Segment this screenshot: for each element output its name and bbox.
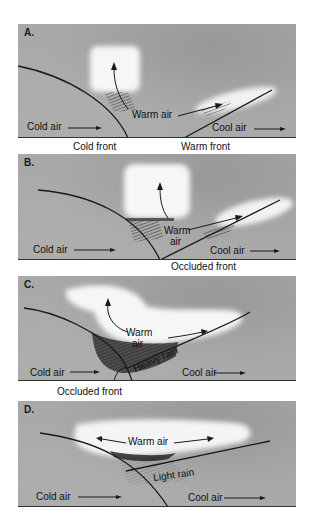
panel-label: D. <box>24 404 34 415</box>
panel-label: B. <box>24 157 34 168</box>
ground-line <box>18 137 296 138</box>
panel-a-cold-and-warm-fronts: A. Warm air Cold air Cool air <box>18 24 296 138</box>
warm-air-label-line2: air <box>132 339 143 349</box>
panel-label: C. <box>24 279 34 290</box>
cold-air-label: Cold air <box>27 122 61 132</box>
cold-air-label: Cold air <box>30 368 64 378</box>
cool-air-label: Cool air <box>182 368 216 378</box>
warm-air-label-line2: air <box>170 237 181 247</box>
panel-label: A. <box>24 27 34 38</box>
warm-air-label: Warm air <box>128 437 168 447</box>
cold-air-label: Cold air <box>36 492 70 502</box>
cool-air-label: Cool air <box>188 493 222 503</box>
panel-c-occluded-front-heavy-rain: C. Warm air Heavy rain Cold air Cool air <box>18 276 296 381</box>
cool-air-label: Cool air <box>212 123 246 133</box>
ground-line <box>18 259 296 260</box>
warm-air-label-line1: Warm <box>164 226 190 236</box>
panel-c-illustration <box>18 276 296 381</box>
occluded-front-caption: Occluded front <box>171 262 236 272</box>
cool-air-label: Cool air <box>210 246 244 256</box>
cold-front-caption: Cold front <box>73 142 116 152</box>
panel-b-occlusion-begins: B. Warm air Cold air Cool air <box>18 154 296 260</box>
warm-front-caption: Warm front <box>181 142 230 152</box>
cold-air-label: Cold air <box>33 245 67 255</box>
ground-line <box>18 380 296 381</box>
warm-air-label-line1: Warm <box>126 328 152 338</box>
warm-air-label: Warm air <box>132 110 172 120</box>
panel-d-dissipating-occlusion-light-rain: D. Warm air Light rain Cold air Cool air <box>18 401 296 507</box>
occluded-front-caption: Occluded front <box>57 387 122 397</box>
ground-line <box>18 506 296 507</box>
